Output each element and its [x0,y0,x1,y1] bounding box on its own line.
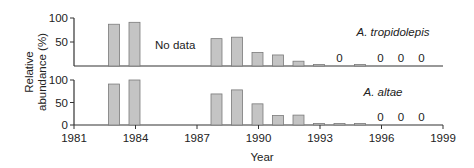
zero-label: 0 [418,52,424,64]
bar [273,116,284,125]
y-tick-label: 0 [62,119,68,131]
species-label: A. altae [363,86,403,98]
x-tick-label: 1990 [246,132,272,144]
y-axis-title-line2: abundance (%) [36,33,48,111]
x-tick-label: 1984 [123,132,149,144]
bar [293,61,304,66]
y-axis-title: Relative abundance (%) [23,33,48,111]
panel-a-altae: 050100000A. altae [49,74,443,131]
bar [129,80,140,125]
y-tick-label: 100 [49,74,68,86]
bar [293,115,304,125]
bar [109,84,120,125]
x-axis: 1981198419871990199319961999 [61,125,456,144]
bar [211,94,222,125]
no-data-note: No data [155,39,196,51]
bar [232,90,243,125]
bar [273,55,284,66]
bar [252,104,263,125]
zero-label: 0 [377,111,383,123]
zero-label: 0 [377,52,383,64]
bar [355,124,366,126]
panel-a-tropidolepis: 501000000A. tropidolepisNo data [49,12,443,66]
y-tick-label: 100 [49,12,68,24]
bar [211,39,222,66]
bar [109,24,120,66]
zero-label: 0 [398,111,404,123]
bar [232,37,243,66]
zero-label: 0 [398,52,404,64]
zero-label: 0 [336,52,342,64]
x-tick-label: 1996 [369,132,395,144]
bar [334,124,345,126]
x-tick-label: 1999 [430,132,456,144]
x-tick-label: 1981 [61,132,87,144]
species-label: A. tropidolepis [356,26,430,38]
y-axis-title-line1: Relative [23,51,35,93]
x-tick-label: 1993 [307,132,333,144]
bar [129,22,140,66]
bar [314,65,325,67]
bar [252,53,263,66]
zero-label: 0 [418,111,424,123]
bar [314,124,325,126]
x-axis-title: Year [250,151,273,163]
x-tick-label: 1987 [184,132,210,144]
y-tick-label: 50 [55,97,68,109]
bar [355,65,366,67]
y-tick-label: 50 [55,36,68,48]
abundance-chart: Relative abundance (%) 501000000A. tropi… [0,0,474,168]
